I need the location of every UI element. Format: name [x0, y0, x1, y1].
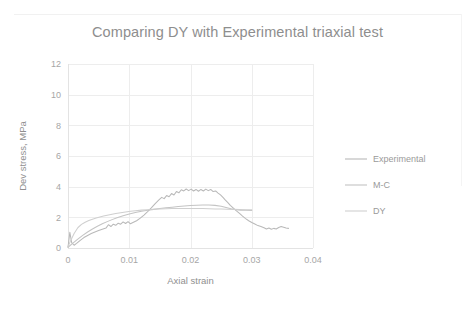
- legend-label-experimental: Experimental: [373, 154, 426, 164]
- y-tick-label: 2: [56, 213, 61, 223]
- y-tick-label: 12: [51, 59, 61, 69]
- series-line-m-c: [68, 205, 252, 247]
- x-tick-label: 0.03: [243, 255, 261, 265]
- series-line-experimental: [68, 189, 289, 247]
- x-axis-title: Axial strain: [167, 275, 213, 286]
- x-axis-tick-labels: 00.010.020.030.04: [65, 255, 321, 265]
- x-tick-label: 0: [65, 255, 70, 265]
- chart-legend: ExperimentalM-CDY: [345, 154, 426, 216]
- horizontal-gridlines: [68, 65, 313, 218]
- y-tick-label: 10: [51, 90, 61, 100]
- y-axis-tick-labels: 024681012: [51, 59, 61, 253]
- series-lines: [68, 189, 289, 247]
- x-tick-label: 0.02: [182, 255, 200, 265]
- x-tick-label: 0.04: [304, 255, 322, 265]
- y-tick-label: 8: [56, 121, 61, 131]
- y-tick-label: 0: [56, 243, 61, 253]
- y-tick-label: 6: [56, 151, 61, 161]
- y-tick-label: 4: [56, 182, 61, 192]
- legend-label-m-c: M-C: [373, 180, 390, 190]
- chart-container: Comparing DY with Experimental triaxial …: [0, 0, 475, 318]
- legend-label-dy: DY: [373, 206, 386, 216]
- x-tick-label: 0.01: [120, 255, 138, 265]
- y-axis-title: Dev stress, MPa: [17, 120, 28, 190]
- chart-plot-area: 024681012 00.010.020.030.04 Experimental…: [0, 0, 475, 318]
